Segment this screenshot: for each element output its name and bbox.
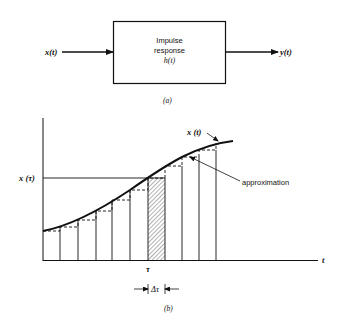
approximation-plot	[43, 118, 318, 294]
delta-tau-label: Δτ	[151, 285, 159, 294]
caption-b: (b)	[164, 304, 173, 313]
tau-label: τ	[146, 265, 150, 274]
block-line-2: response	[113, 46, 226, 56]
x-t-leader	[207, 133, 218, 141]
bar-edges	[60, 150, 216, 260]
block-label: Impulse response h(t)	[113, 36, 226, 66]
output-signal-label: y(t)	[280, 48, 292, 57]
staircase-approximation	[43, 143, 216, 231]
hatched-bar	[148, 178, 165, 260]
approximation-leader	[190, 157, 240, 181]
block-line-1: Impulse	[113, 36, 226, 46]
caption-a: (a)	[163, 96, 172, 105]
time-axis-label: t	[322, 256, 324, 265]
approximation-label: approximation	[242, 179, 289, 187]
block-line-3: h(t)	[113, 56, 226, 66]
curve-label: x (t)	[187, 128, 201, 137]
input-signal-label: x(t)	[45, 48, 57, 57]
signal-curve	[43, 141, 233, 231]
level-label: x (τ)	[19, 174, 35, 183]
